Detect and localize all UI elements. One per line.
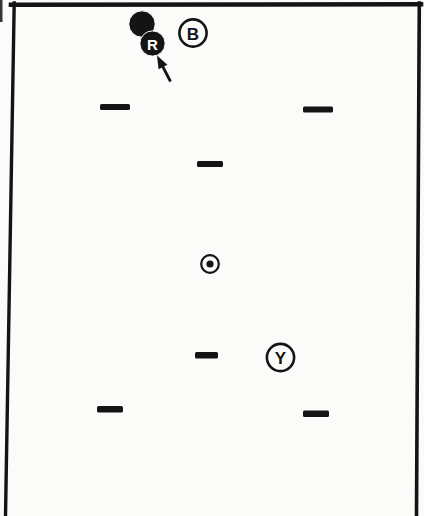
dash-upper-left bbox=[100, 104, 130, 110]
table-diagram: BYR bbox=[0, 0, 424, 516]
table-left-edge bbox=[6, 3, 15, 516]
dash-upper-right bbox=[303, 107, 333, 113]
table-right-edge bbox=[417, 3, 420, 516]
scanned-diagram-page: BYR bbox=[0, 0, 424, 516]
marker-Y-label: Y bbox=[275, 349, 287, 368]
ball-R-label: R bbox=[147, 36, 158, 53]
dash-bottom-right bbox=[303, 411, 329, 418]
dash-upper-center bbox=[197, 161, 223, 167]
dash-bottom-left bbox=[97, 406, 123, 413]
dash-lower-center bbox=[195, 352, 218, 359]
marker-B-label: B bbox=[187, 25, 199, 44]
scan-artifact bbox=[0, 0, 3, 22]
center-spot-dot bbox=[206, 260, 213, 267]
pointer-arrow-head bbox=[157, 56, 167, 70]
